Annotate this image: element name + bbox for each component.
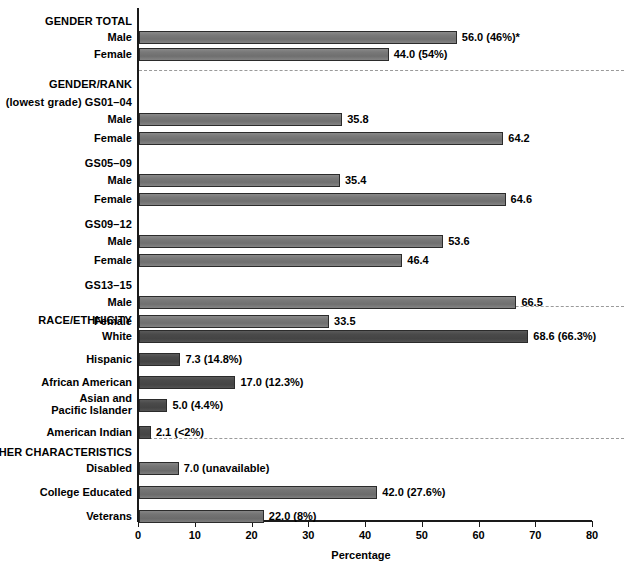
bar-value-label: 7.3 (14.8%): [185, 353, 242, 366]
row-label: Disabled: [0, 462, 132, 475]
bar: [139, 353, 180, 366]
bar-value-label: 42.0 (27.6%): [382, 486, 445, 499]
chart-row: African American17.0 (12.3%): [0, 376, 626, 390]
section-heading-gender-rank: GENDER/RANK: [0, 78, 626, 92]
bar: [139, 235, 443, 248]
chart-row: Female44.0 (54%): [0, 48, 626, 62]
row-label: Male: [0, 174, 132, 187]
x-axis-title-text: Percentage: [331, 549, 390, 561]
bar: [139, 486, 377, 499]
subheading-1-text: GS05–09: [0, 157, 132, 170]
section-heading-race-ethnicity: RACE/ETHNICITY: [0, 314, 626, 328]
x-tick-label-60: 60: [472, 529, 484, 541]
bar-value-label: 7.0 (unavailable): [184, 462, 270, 475]
row-label: Male: [0, 113, 132, 126]
chart-row: Male35.8: [0, 113, 626, 127]
bar-value-label: 35.4: [345, 174, 366, 187]
bar-value-label: 46.4: [407, 254, 428, 267]
x-tick-label-80: 80: [586, 529, 598, 541]
section-heading-other-characteristics-text: OTHER CHARACTERISTICS: [0, 446, 132, 459]
bar: [139, 376, 235, 389]
bar: [139, 113, 342, 126]
bar-value-label: 56.0 (46%)*: [462, 31, 520, 44]
subheading-3: GS13–15: [0, 279, 626, 293]
chart-row: American Indian2.1 (<2%): [0, 426, 626, 440]
x-tick-label-40: 40: [359, 529, 371, 541]
bar: [139, 254, 402, 267]
chart-row: Asian andPacific Islander5.0 (4.4%): [0, 399, 626, 413]
x-axis-title: Percentage: [0, 549, 626, 561]
subheading-1: GS05–09: [0, 157, 626, 171]
row-label: Female: [0, 254, 132, 267]
bar-chart: 01020304050607080 Percentage GENDER TOTA…: [0, 0, 626, 572]
bar: [139, 426, 151, 439]
row-label: Hispanic: [0, 353, 132, 366]
section-heading-gender-total: GENDER TOTAL: [0, 15, 626, 29]
bar: [139, 330, 528, 343]
row-label: Female: [0, 132, 132, 145]
row-label: Asian andPacific Islander: [0, 393, 132, 416]
row-label: Female: [0, 193, 132, 206]
chart-row: Female64.2: [0, 132, 626, 146]
bar-value-label: 22.0 (8%): [269, 510, 317, 523]
bar: [139, 48, 389, 61]
subheading-0-text: (lowest grade) GS01–04: [0, 96, 132, 109]
bar: [139, 399, 167, 412]
bar: [139, 174, 340, 187]
x-tick-label-30: 30: [302, 529, 314, 541]
bar-value-label: 68.6 (66.3%): [533, 330, 596, 343]
row-label: Veterans: [0, 510, 132, 523]
bar-value-label: 66.5: [521, 296, 542, 309]
x-tick-label-50: 50: [416, 529, 428, 541]
bar-value-label: 17.0 (12.3%): [240, 376, 303, 389]
chart-row: Veterans22.0 (8%): [0, 510, 626, 524]
bar-value-label: 44.0 (54%): [394, 48, 448, 61]
subheading-2-text: GS09–12: [0, 218, 132, 231]
chart-row: Hispanic7.3 (14.8%): [0, 353, 626, 367]
row-label: Female: [0, 48, 132, 61]
chart-row: Male56.0 (46%)*: [0, 31, 626, 45]
bar: [139, 31, 457, 44]
bar: [139, 296, 516, 309]
chart-row: Female46.4: [0, 254, 626, 268]
subheading-2: GS09–12: [0, 218, 626, 232]
bar: [139, 462, 179, 475]
chart-row: Male53.6: [0, 235, 626, 249]
section-heading-race-ethnicity-text: RACE/ETHNICITY: [0, 314, 132, 327]
bar-value-label: 64.2: [508, 132, 529, 145]
x-tick-label-70: 70: [529, 529, 541, 541]
chart-row: White68.6 (66.3%): [0, 330, 626, 344]
row-label: Male: [0, 31, 132, 44]
bar-value-label: 5.0 (4.4%): [172, 399, 223, 412]
section-heading-other-characteristics: OTHER CHARACTERISTICS: [0, 446, 626, 460]
row-label: African American: [0, 376, 132, 389]
row-label: White: [0, 330, 132, 343]
bar-value-label: 64.6: [511, 193, 532, 206]
row-label: American Indian: [0, 426, 132, 439]
chart-row: Male66.5: [0, 296, 626, 310]
section-heading-gender-total-text: GENDER TOTAL: [0, 15, 132, 28]
row-label: Male: [0, 235, 132, 248]
bar: [139, 132, 503, 145]
row-label: College Educated: [0, 486, 132, 499]
bar-value-label: 53.6: [448, 235, 469, 248]
chart-row: College Educated42.0 (27.6%): [0, 486, 626, 500]
bar: [139, 510, 264, 523]
x-tick-label-10: 10: [189, 529, 201, 541]
x-tick-label-20: 20: [245, 529, 257, 541]
bar: [139, 193, 506, 206]
chart-row: Female64.6: [0, 193, 626, 207]
chart-row: Male35.4: [0, 174, 626, 188]
bar-value-label: 2.1 (<2%): [156, 426, 204, 439]
x-tick-label-0: 0: [135, 529, 141, 541]
chart-row: Disabled7.0 (unavailable): [0, 462, 626, 476]
subheading-3-text: GS13–15: [0, 279, 132, 292]
row-label: Male: [0, 296, 132, 309]
section-separator-1: [139, 70, 624, 71]
bar-value-label: 35.8: [347, 113, 368, 126]
section-heading-gender-rank-text: GENDER/RANK: [0, 78, 132, 91]
subheading-0: (lowest grade) GS01–04: [0, 96, 626, 110]
plot-area: 01020304050607080 Percentage GENDER TOTA…: [0, 0, 626, 572]
